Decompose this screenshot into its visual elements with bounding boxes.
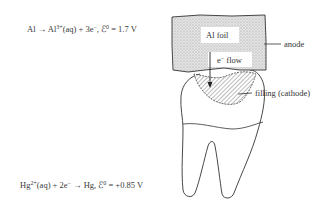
- flow-word: flow: [224, 55, 242, 65]
- tooth-diagram: [0, 0, 331, 209]
- al-foil-label: Al foil: [206, 30, 228, 40]
- anode-label: anode: [284, 39, 304, 49]
- electron-flow-label: e− flow: [217, 55, 242, 65]
- filling-cathode-label: filling (cathode): [255, 88, 310, 98]
